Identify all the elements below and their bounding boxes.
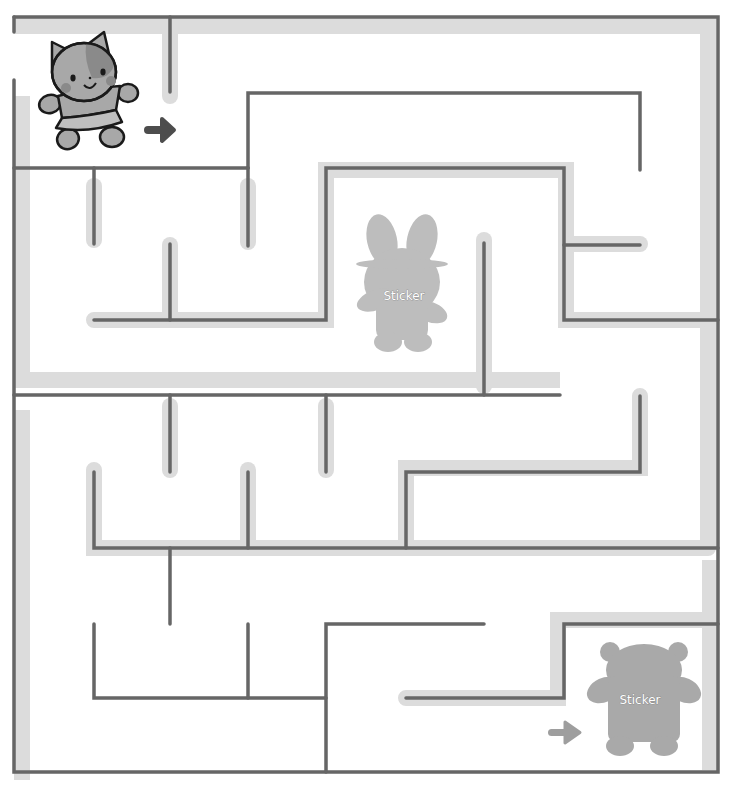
bunny-sticker-label: Sticker [383, 289, 424, 303]
bear-sticker-label: Sticker [619, 693, 660, 707]
cat-character[interactable] [37, 32, 138, 152]
start-arrow-icon [144, 119, 174, 141]
start-opening [8, 34, 20, 78]
maze-board: Sticker Sticker [0, 0, 734, 785]
end-arrow-icon [548, 722, 580, 743]
bear-sticker[interactable]: Sticker [583, 642, 706, 756]
bunny-sticker[interactable]: Sticker [354, 211, 451, 352]
